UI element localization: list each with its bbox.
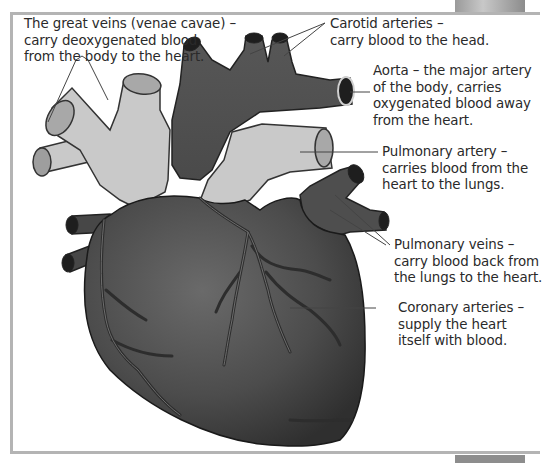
label-line: itself with blood. — [398, 333, 524, 350]
label-line: the lungs to the heart. — [394, 270, 542, 287]
label-line: Carotid arteries – — [330, 16, 489, 33]
great-veins-vessel — [33, 71, 170, 205]
label-line: carry blood back from — [394, 254, 542, 271]
label-great-veins: The great veins (venae cavae) – carry de… — [24, 16, 236, 66]
label-line: carry blood to the head. — [330, 33, 489, 50]
label-line: heart to the lungs. — [382, 177, 528, 194]
label-pulmonary-artery: Pulmonary artery – carries blood from th… — [382, 144, 528, 194]
label-line: Aorta – the major artery — [373, 63, 532, 80]
label-line: Pulmonary artery – — [382, 144, 528, 161]
label-line: oxygenated blood away — [373, 96, 532, 113]
label-line: Pulmonary veins – — [394, 237, 542, 254]
label-line: carries blood from the — [382, 161, 528, 178]
label-line: The great veins (venae cavae) – — [24, 16, 236, 33]
label-line: from the body to the heart. — [24, 49, 236, 66]
label-pulmonary-veins: Pulmonary veins – carry blood back from … — [394, 237, 542, 287]
label-line: from the heart. — [373, 113, 532, 130]
label-coronary-arteries: Coronary arteries – supply the heart its… — [398, 300, 524, 350]
label-aorta: Aorta – the major artery of the body, ca… — [373, 63, 532, 129]
label-carotid-arteries: Carotid arteries – carry blood to the he… — [330, 16, 489, 49]
label-line: supply the heart — [398, 317, 524, 334]
label-line: of the body, carries — [373, 80, 532, 97]
label-line: Coronary arteries – — [398, 300, 524, 317]
label-line: carry deoxygenated blood — [24, 33, 236, 50]
